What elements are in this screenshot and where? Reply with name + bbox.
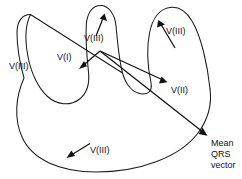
label-v-iii-left: V(III) [9, 61, 29, 72]
mean-qrs-line-2: QRS [211, 149, 231, 159]
vector-arrow-v-ii [100, 51, 168, 84]
vector-arrow-mean-qrs [100, 51, 208, 136]
label-v-ii: V(II) [171, 85, 188, 96]
label-v-iii-bottom: V(III) [90, 145, 110, 156]
label-v-i: V(I) [57, 52, 72, 63]
label-v-iii-right: V(III) [166, 26, 186, 37]
vector-diagram: V(III) V(III) V(III) V(I) V(II) V(III) M… [0, 0, 242, 179]
mean-qrs-line-1: Mean [211, 138, 234, 148]
mean-qrs-line-3: vector [211, 160, 236, 170]
label-mean-qrs-vector: Mean QRS vector [211, 138, 242, 171]
label-v-iii-middle: V(III) [84, 33, 104, 44]
vector-arrow-v-i [79, 51, 100, 69]
vector-arrow-v-iii-bottom [67, 144, 91, 159]
diagram-canvas [0, 0, 242, 179]
